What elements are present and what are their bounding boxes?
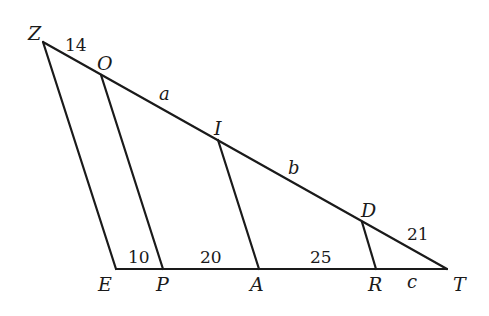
vertex-label-o: O xyxy=(97,52,113,74)
length-label-pa: 20 xyxy=(200,247,222,267)
vertex-label-r: R xyxy=(367,273,382,295)
vertex-label-a: A xyxy=(248,273,264,295)
vertex-label-e: E xyxy=(97,273,112,295)
vertex-label-i: I xyxy=(213,117,222,139)
length-label-ep: 10 xyxy=(128,247,150,267)
side-zt xyxy=(43,42,447,269)
length-label-oi: a xyxy=(159,83,170,104)
length-label-rt: c xyxy=(407,271,417,292)
length-label-zo: 14 xyxy=(65,35,87,55)
vertex-label-z: Z xyxy=(27,22,42,44)
vertex-label-t: T xyxy=(453,273,467,295)
triangle-diagram: Z O I D T E P A R 14 a b 21 10 20 25 c xyxy=(0,0,489,316)
length-label-dt: 21 xyxy=(407,224,429,244)
vertex-label-d: D xyxy=(360,199,376,221)
vertex-label-p: P xyxy=(155,273,170,295)
length-label-ar: 25 xyxy=(310,247,332,267)
length-label-id: b xyxy=(288,157,300,178)
